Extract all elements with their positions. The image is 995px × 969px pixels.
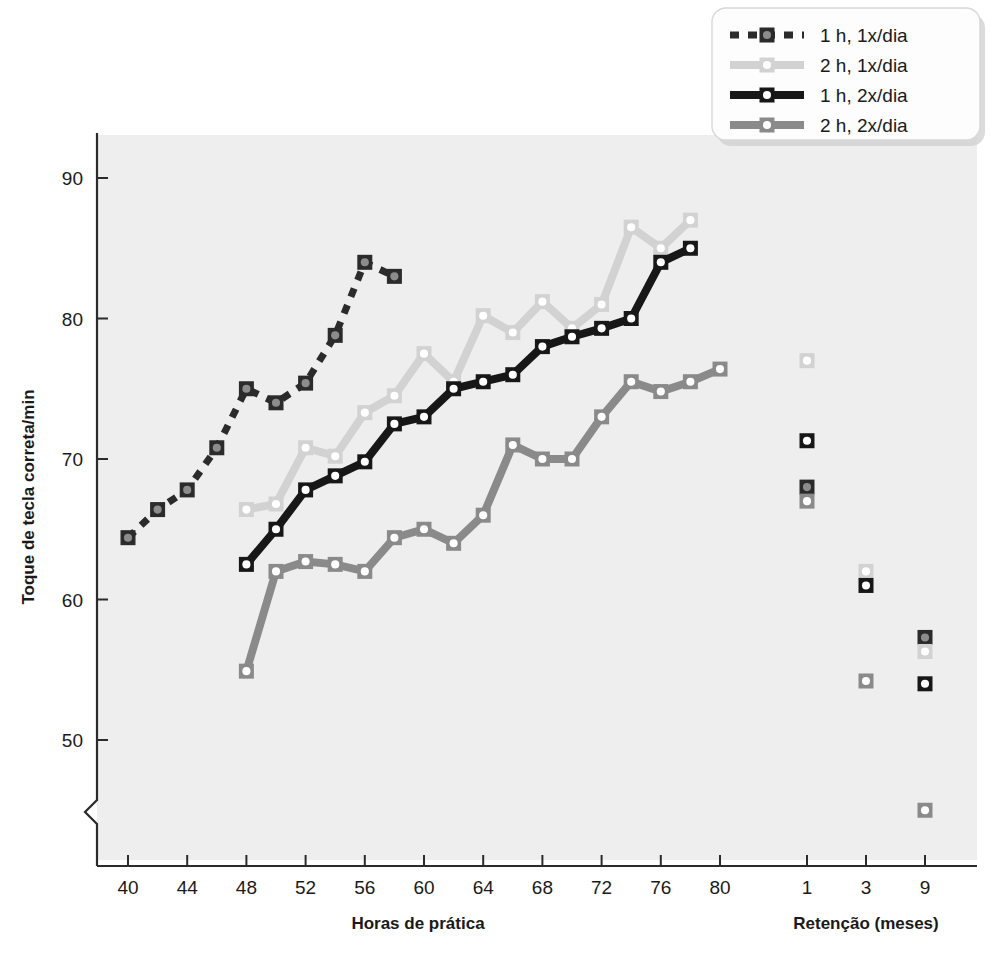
data-point-inner: [361, 458, 369, 466]
data-point-inner: [598, 300, 606, 308]
figure-container: 5060708090 4044485256606468727680139 Toq…: [0, 0, 995, 969]
retention-point-inner: [803, 437, 811, 445]
legend-item-label: 1 h, 2x/dia: [820, 85, 908, 106]
data-point-inner: [331, 472, 339, 480]
data-point-inner: [627, 223, 635, 231]
data-point-inner: [509, 441, 517, 449]
legend-swatch-marker-inner: [763, 121, 771, 129]
data-point-inner: [183, 486, 191, 494]
plot-area-background: [97, 135, 977, 860]
data-point-inner: [361, 567, 369, 575]
legend-item-label: 2 h, 1x/dia: [820, 55, 908, 76]
data-point-inner: [657, 388, 665, 396]
data-point-inner: [538, 455, 546, 463]
retention-tick-label: 3: [861, 877, 872, 898]
x-tick-label: 40: [117, 877, 138, 898]
x-tick-label: 76: [650, 877, 671, 898]
data-point-inner: [302, 444, 310, 452]
data-point-inner: [538, 343, 546, 351]
data-point-inner: [627, 378, 635, 386]
data-point-inner: [657, 258, 665, 266]
x-axis-title: Horas de prática: [351, 914, 485, 933]
data-point-inner: [242, 667, 250, 675]
data-point-inner: [568, 333, 576, 341]
data-point-inner: [420, 413, 428, 421]
data-point-inner: [242, 506, 250, 514]
data-point-inner: [479, 511, 487, 519]
data-point-inner: [272, 500, 280, 508]
data-point-inner: [213, 444, 221, 452]
data-point-inner: [509, 371, 517, 379]
data-point-inner: [420, 350, 428, 358]
data-point-inner: [302, 558, 310, 566]
x-tick-label: 52: [295, 877, 316, 898]
data-point-inner: [538, 298, 546, 306]
data-point-inner: [627, 314, 635, 322]
legend-swatch-marker-inner: [763, 91, 771, 99]
data-point-inner: [568, 455, 576, 463]
x-tick-label: 56: [354, 877, 375, 898]
x-tick-label: 64: [473, 877, 495, 898]
y-tick-label: 90: [62, 168, 83, 189]
x-tick-label: 60: [413, 877, 434, 898]
retention-point-inner: [921, 633, 929, 641]
data-point-inner: [450, 385, 458, 393]
y-axis-title: Toque de tecla correta/min: [19, 389, 38, 604]
data-point-inner: [124, 534, 132, 542]
data-point-inner: [450, 539, 458, 547]
data-point-inner: [302, 486, 310, 494]
data-point-inner: [479, 378, 487, 386]
data-point-inner: [242, 560, 250, 568]
x-tick-label: 68: [532, 877, 553, 898]
y-tick-label: 80: [62, 309, 83, 330]
legend-item-label: 2 h, 2x/dia: [820, 115, 908, 136]
retention-point-inner: [921, 647, 929, 655]
retention-axis-title: Retenção (meses): [793, 914, 939, 933]
data-point-inner: [390, 272, 398, 280]
data-point-inner: [390, 420, 398, 428]
retention-point-inner: [803, 497, 811, 505]
data-point-inner: [331, 560, 339, 568]
data-point-inner: [331, 452, 339, 460]
x-tick-label: 44: [177, 877, 199, 898]
x-tick-label: 48: [236, 877, 257, 898]
data-point-inner: [272, 399, 280, 407]
data-point-inner: [154, 506, 162, 514]
chart-legend[interactable]: 1 h, 1x/dia2 h, 1x/dia1 h, 2x/dia2 h, 2x…: [712, 8, 985, 146]
data-point-inner: [390, 392, 398, 400]
data-point-inner: [686, 216, 694, 224]
data-point-inner: [272, 525, 280, 533]
data-point-inner: [361, 258, 369, 266]
data-point-inner: [598, 324, 606, 332]
data-point-inner: [302, 379, 310, 387]
data-point-inner: [509, 329, 517, 337]
data-point-inner: [420, 525, 428, 533]
data-point-inner: [361, 409, 369, 417]
data-point-inner: [657, 244, 665, 252]
data-point-inner: [331, 331, 339, 339]
retention-tick-label: 9: [920, 877, 931, 898]
retention-point-inner: [803, 357, 811, 365]
y-tick-label: 70: [62, 449, 83, 470]
data-point-inner: [479, 312, 487, 320]
retention-point-inner: [862, 581, 870, 589]
x-tick-label: 80: [709, 877, 730, 898]
legend-swatch-marker-inner: [763, 31, 771, 39]
data-point-inner: [686, 378, 694, 386]
y-tick-label: 50: [62, 730, 83, 751]
retention-point-inner: [862, 567, 870, 575]
line-chart: 5060708090 4044485256606468727680139 Toq…: [0, 0, 995, 969]
retention-point-inner: [921, 680, 929, 688]
y-tick-label: 60: [62, 590, 83, 611]
legend-swatch-marker-inner: [763, 61, 771, 69]
retention-point-inner: [803, 483, 811, 491]
data-point-inner: [598, 413, 606, 421]
retention-point-inner: [921, 806, 929, 814]
retention-tick-label: 1: [802, 877, 813, 898]
data-point-inner: [242, 385, 250, 393]
data-point-inner: [272, 567, 280, 575]
x-tick-label: 72: [591, 877, 612, 898]
data-point-inner: [716, 365, 724, 373]
data-point-inner: [686, 244, 694, 252]
retention-point-inner: [862, 677, 870, 685]
